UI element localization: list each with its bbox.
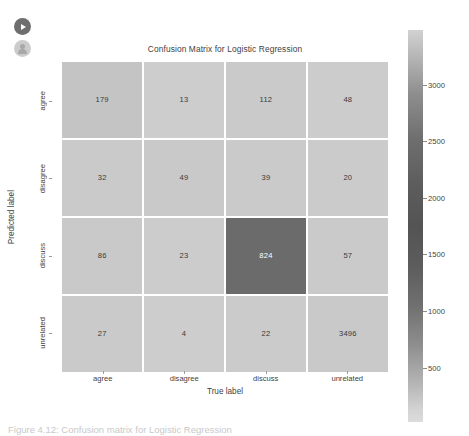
x-tick-discuss: discuss xyxy=(225,374,307,383)
confusion-matrix-figure: Confusion Matrix for Logistic Regression… xyxy=(0,0,469,436)
colorbar-tick-label: 3000 xyxy=(428,81,445,90)
colorbar-tick-label: 2500 xyxy=(428,137,445,146)
y-tick-discuss: discuss xyxy=(0,217,52,295)
heatmap-cell-value: 4 xyxy=(182,330,186,338)
heatmap-cell-value: 27 xyxy=(98,330,107,338)
heatmap-cell: 20 xyxy=(308,140,388,216)
heatmap-cell: 22 xyxy=(226,296,306,372)
heatmap-cell-value: 86 xyxy=(98,252,107,260)
x-axis-label: True label xyxy=(62,387,388,396)
colorbar-tick: 1000 xyxy=(423,306,445,316)
heatmap-cell-value: 824 xyxy=(259,252,272,260)
heatmap-cell: 112 xyxy=(226,62,306,138)
heatmap-cell-value: 57 xyxy=(343,252,352,260)
heatmap-cell-value: 179 xyxy=(96,96,109,104)
heatmap-cell-value: 23 xyxy=(180,252,189,260)
colorbar-tick: 3000 xyxy=(423,80,445,90)
heatmap-cell: 39 xyxy=(226,140,306,216)
heatmap-cell: 13 xyxy=(144,62,224,138)
colorbar-gradient xyxy=(408,30,423,422)
y-tick-unrelated: unrelated xyxy=(0,295,52,373)
colorbar-tick: 2500 xyxy=(423,136,445,146)
heatmap-cell: 824 xyxy=(226,218,306,294)
overlay-icon-group xyxy=(14,18,38,62)
heatmap-cell: 27 xyxy=(62,296,142,372)
heatmap-cell-value: 48 xyxy=(343,96,352,104)
heatmap-cell: 32 xyxy=(62,140,142,216)
account-icon[interactable] xyxy=(14,40,31,57)
y-tick-disagree: disagree xyxy=(0,140,52,218)
heatmap-cell-value: 32 xyxy=(98,174,107,182)
colorbar-tick-label: 1000 xyxy=(428,307,445,316)
y-tick-label: discuss xyxy=(38,243,47,268)
heatmap-cell-value: 13 xyxy=(180,96,189,104)
colorbar-tick-label: 2000 xyxy=(428,194,445,203)
play-icon[interactable] xyxy=(14,18,31,35)
heatmap-grid: 179131124832493920862382457274223496 xyxy=(62,62,388,372)
person-body xyxy=(18,49,27,54)
y-tick-label: disagree xyxy=(38,164,47,193)
heatmap-cell: 23 xyxy=(144,218,224,294)
play-triangle-glyph xyxy=(21,24,26,30)
x-tick-disagree: disagree xyxy=(144,374,226,383)
heatmap-cell-value: 3496 xyxy=(339,330,357,338)
colorbar-tick-label: 500 xyxy=(428,364,441,373)
heatmap-cell: 3496 xyxy=(308,296,388,372)
heatmap-cell-value: 39 xyxy=(262,174,271,182)
heatmap-cell: 49 xyxy=(144,140,224,216)
heatmap-cell-value: 22 xyxy=(262,330,271,338)
heatmap-cell: 4 xyxy=(144,296,224,372)
x-tick-unrelated: unrelated xyxy=(307,374,389,383)
person-head xyxy=(20,44,24,48)
heatmap-cell: 48 xyxy=(308,62,388,138)
colorbar-tick: 2000 xyxy=(423,193,445,203)
colorbar-tick: 1500 xyxy=(423,249,445,259)
colorbar-tick-label: 1500 xyxy=(428,250,445,259)
y-tick-agree: agree xyxy=(0,62,52,140)
person-glyph xyxy=(17,43,28,54)
heatmap-cell: 179 xyxy=(62,62,142,138)
chart-title: Confusion Matrix for Logistic Regression xyxy=(60,44,390,54)
y-tick-label: unrelated xyxy=(38,317,47,349)
heatmap-cell: 86 xyxy=(62,218,142,294)
heatmap-cell-value: 20 xyxy=(343,174,352,182)
y-tick-label: agree xyxy=(38,91,47,110)
heatmap-cell-value: 112 xyxy=(260,96,273,104)
colorbar-tick: 500 xyxy=(423,363,441,373)
heatmap-cell: 57 xyxy=(308,218,388,294)
x-tick-agree: agree xyxy=(62,374,144,383)
heatmap-cell-value: 49 xyxy=(180,174,189,182)
figure-caption: Figure 4.12: Confusion matrix for Logist… xyxy=(8,424,308,436)
